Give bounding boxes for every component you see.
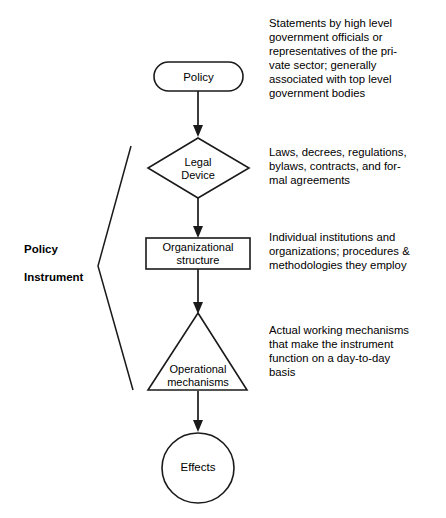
node-policy: Policy xyxy=(154,62,243,91)
node-policy-label: Policy xyxy=(183,71,214,83)
annotation-organizational-structure-line-3: methodologies they employ xyxy=(269,259,407,271)
annotation-policy-line-5: associated with top level xyxy=(269,73,391,85)
annotation-policy-line-1: Statements by high level xyxy=(269,17,392,29)
side-label-line-2: Instrument xyxy=(24,271,84,283)
node-legal-device-label-line-2: Device xyxy=(181,169,215,181)
connector-organizational-structure-to-operational-mechanisms xyxy=(193,269,203,314)
node-organizational-structure-label-line-1: Organizational xyxy=(163,241,234,253)
node-effects: Effects xyxy=(162,433,234,503)
annotation-legal-device: Laws, decrees, regulations, bylaws, cont… xyxy=(269,146,407,186)
annotation-operational-mechanisms-line-2: that make the instrument xyxy=(269,338,394,350)
annotation-organizational-structure-line-2: organizations; procedures & xyxy=(269,245,410,257)
arrow-head-icon xyxy=(193,226,203,238)
node-legal-device: Legal Device xyxy=(148,138,249,198)
node-operational-mechanisms-label-line-2: mechanisms xyxy=(167,376,229,388)
node-organizational-structure-label-line-2: structure xyxy=(177,254,220,266)
annotation-operational-mechanisms-line-1: Actual working mechanisms xyxy=(269,324,409,336)
side-label-line-1: Policy xyxy=(24,243,58,255)
annotation-operational-mechanisms-line-4: basis xyxy=(269,366,296,378)
annotation-organizational-structure: Individual institutions and organization… xyxy=(269,231,410,271)
annotation-policy: Statements by high level government offi… xyxy=(269,17,397,99)
annotation-organizational-structure-line-1: Individual institutions and xyxy=(269,231,395,243)
node-organizational-structure: Organizational structure xyxy=(146,238,250,269)
annotation-operational-mechanisms: Actual working mechanisms that make the … xyxy=(269,324,409,378)
annotation-legal-device-line-3: mal agreements xyxy=(269,174,350,186)
flowchart-diagram: Policy Instrument Policy Legal Device Or… xyxy=(0,0,446,518)
annotation-policy-line-2: government officials or xyxy=(269,31,383,43)
policy-instrument-bracket xyxy=(98,146,133,390)
arrow-head-icon xyxy=(193,125,203,137)
arrow-head-icon xyxy=(193,420,203,432)
annotation-policy-line-4: vate sector; generally xyxy=(269,59,377,71)
connector-policy-to-legal-device xyxy=(193,91,203,137)
flowchart-canvas: Policy Instrument Policy Legal Device Or… xyxy=(0,0,446,518)
connector-operational-mechanisms-to-effects xyxy=(193,391,203,432)
node-operational-mechanisms: Operational mechanisms xyxy=(148,313,247,390)
node-legal-device-label-line-1: Legal xyxy=(185,156,212,168)
annotation-policy-line-6: government bodies xyxy=(269,87,365,99)
annotation-legal-device-line-2: bylaws, contracts, and for- xyxy=(269,160,401,172)
annotation-legal-device-line-1: Laws, decrees, regulations, xyxy=(269,146,407,158)
annotation-operational-mechanisms-line-3: function on a day-to-day xyxy=(269,352,391,364)
node-operational-mechanisms-label-line-1: Operational xyxy=(170,363,227,375)
connector-legal-device-to-organizational-structure xyxy=(193,198,203,238)
side-label-policy-instrument: Policy Instrument xyxy=(24,243,84,283)
node-effects-label: Effects xyxy=(181,461,216,473)
annotation-policy-line-3: representatives of the pri- xyxy=(269,45,397,57)
